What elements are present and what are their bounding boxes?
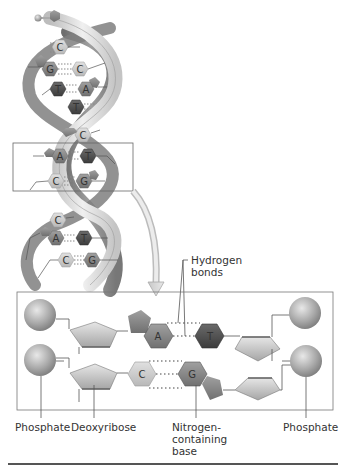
label-line: bonds (191, 266, 242, 278)
base-pentagon (89, 170, 99, 180)
base-letter: T (80, 233, 88, 244)
deoxyribose-pentagon (70, 322, 117, 347)
base-letter: T (206, 331, 214, 342)
base-letter: T (72, 102, 80, 113)
base-letter: C (77, 64, 84, 75)
base-letter: A (83, 84, 90, 95)
base-letter: A (57, 151, 64, 162)
phosphate-sphere (290, 345, 322, 377)
label-deoxyribose: Deoxyribose (71, 421, 136, 433)
base-letter: C (63, 255, 70, 266)
base-letter: A (53, 233, 60, 244)
base-letter: C (57, 42, 64, 53)
label-hydrogen-bonds: Hydrogen bonds (191, 254, 242, 278)
deoxyribose-pentagon (70, 364, 117, 389)
deoxyribose-pentagon (235, 337, 280, 361)
detail-box (17, 292, 333, 410)
detail-pair-cg: C G (24, 344, 322, 402)
hydrogen-bonds-leader (178, 260, 188, 336)
phosphate-sphere (289, 297, 321, 329)
label-line: Nitrogen- (172, 421, 227, 433)
base-letter: G (88, 255, 96, 266)
label-phosphate-left: Phosphate (15, 421, 70, 433)
base-letter: G (46, 64, 54, 75)
detail-pair-at: A T (24, 297, 321, 361)
base-letter: G (188, 369, 196, 380)
label-phosphate-right: Phosphate (283, 421, 338, 433)
label-line: containing (172, 433, 227, 445)
label-nitrogen-base: Nitrogen- containing base (172, 421, 227, 457)
dna-diagram: C G C T A T (0, 0, 345, 472)
deoxyribose-pentagon (235, 378, 280, 400)
base-letter: C (53, 176, 60, 187)
base-letter: C (55, 215, 62, 226)
base-letter: T (54, 84, 62, 95)
label-line: base (172, 445, 227, 457)
bottom-divider (8, 463, 338, 465)
base-letter: C (80, 130, 87, 141)
base-letter: T (84, 151, 92, 162)
phosphate-sphere (24, 299, 56, 331)
label-line: Hydrogen (191, 254, 242, 266)
base-pentagon (202, 376, 223, 400)
phosphate-sphere (24, 344, 56, 376)
base-letter: C (139, 369, 146, 380)
base-letter: G (80, 176, 88, 187)
base-letter: A (155, 331, 162, 342)
zoom-arrow (133, 191, 164, 296)
